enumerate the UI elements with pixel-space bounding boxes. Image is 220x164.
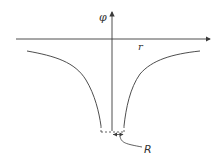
radius-dimension-arrow: [113, 133, 124, 137]
phi-axis-label: φ: [99, 11, 107, 24]
potential-diagram: φ r R: [0, 0, 220, 164]
radius-leader-line: [120, 136, 142, 147]
potential-curve-left: [27, 51, 101, 126]
radius-label: R: [144, 143, 152, 156]
potential-curve-right: [124, 51, 200, 126]
r-axis-label: r: [138, 41, 144, 52]
